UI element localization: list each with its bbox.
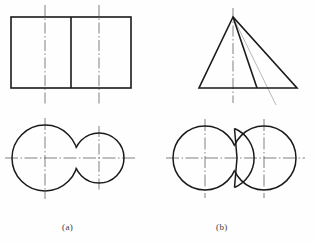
- panel-b-front-view: [199, 8, 297, 105]
- panel-a-top-view: [5, 118, 136, 199]
- triangle-internal-edge-b: [233, 17, 257, 88]
- panel-b-top-view: [166, 119, 305, 198]
- caption-b: (b): [216, 222, 228, 232]
- triangle-outline-b: [199, 17, 297, 88]
- panel-a-front-view: [11, 5, 131, 105]
- drawing-sheet: (a) (b): [0, 0, 315, 242]
- technical-drawing-canvas: [0, 0, 315, 242]
- caption-a: (a): [62, 222, 73, 232]
- construction-line-b: [233, 17, 276, 105]
